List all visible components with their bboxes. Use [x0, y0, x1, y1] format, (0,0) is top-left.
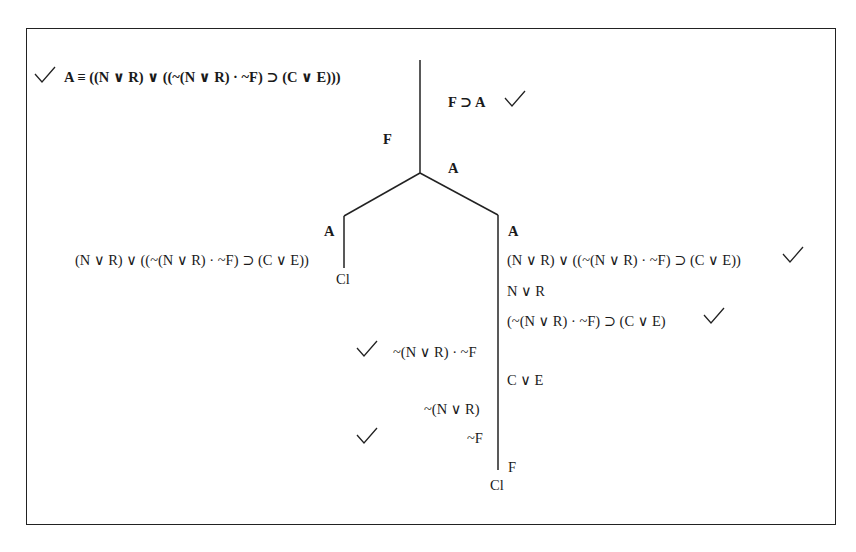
right-branch-closed: Cl: [490, 477, 504, 493]
left-branch-A: A: [324, 223, 334, 239]
checkmark-icon: [356, 340, 378, 358]
checkmark-icon: [782, 246, 804, 264]
right-branch-diagonal: [420, 173, 498, 215]
branch-label-A: A: [448, 160, 458, 176]
sub-conjunction: ~(N ∨ R) · ~F: [393, 344, 477, 360]
premise-formula: A ≡ ((N ∨ R) ∨ ((~(N ∨ R) · ~F) ⊃ (C ∨ E…: [64, 69, 341, 85]
branch-label-F: F: [383, 131, 392, 147]
right-branch-formula: (N ∨ R) ∨ ((~(N ∨ R) · ~F) ⊃ (C ∨ E)): [507, 252, 741, 268]
checkmark-icon: [703, 307, 725, 325]
right-branch-c-or-e: C ∨ E: [507, 372, 543, 388]
sub-neg-F: ~F: [467, 430, 483, 446]
premise2-formula: F ⊃ A: [448, 94, 485, 110]
right-branch-conditional: (~(N ∨ R) · ~F) ⊃ (C ∨ E): [507, 313, 666, 329]
left-branch-diagonal: [344, 173, 420, 216]
left-branch-closed: Cl: [336, 271, 350, 287]
sub-neg-n-or-r: ~(N ∨ R): [424, 401, 480, 417]
right-branch-A: A: [508, 223, 518, 239]
right-branch-F: F: [508, 459, 516, 475]
right-branch-n-or-r: N ∨ R: [507, 283, 545, 299]
checkmark-icon: [34, 66, 56, 84]
checkmark-icon: [504, 90, 526, 108]
left-branch-formula: (N ∨ R) ∨ ((~(N ∨ R) · ~F) ⊃ (C ∨ E)): [75, 252, 309, 268]
checkmark-icon: [356, 427, 378, 445]
